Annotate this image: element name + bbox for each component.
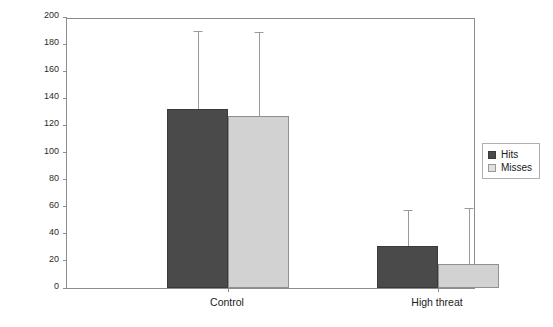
hits-swatch-icon xyxy=(488,151,496,159)
y-tick-label: 140 xyxy=(44,91,59,101)
bar-chart-figure: Composite score 020406080100120140160180… xyxy=(0,0,553,327)
error-bar-cap xyxy=(464,208,473,209)
y-axis-title: Composite score xyxy=(23,0,39,49)
bar-hits-control xyxy=(167,109,228,288)
y-tick-label: 80 xyxy=(49,173,59,183)
legend-item-label: Hits xyxy=(501,148,518,161)
error-bar-cap xyxy=(193,31,202,32)
error-bar-cap xyxy=(254,32,263,33)
y-tick-mark xyxy=(63,17,67,18)
bar-misses-control xyxy=(228,116,289,288)
y-tick-mark xyxy=(63,44,67,45)
bar-hits-high-threat xyxy=(377,246,438,288)
y-tick-mark xyxy=(63,152,67,153)
legend-item-misses[interactable]: Misses xyxy=(488,161,532,174)
error-bar-stem xyxy=(259,33,260,116)
legend-item-label: Misses xyxy=(501,161,532,174)
y-tick-mark xyxy=(63,71,67,72)
misses-swatch-icon xyxy=(488,164,496,172)
x-tick-mark xyxy=(228,288,229,292)
bar-misses-high-threat xyxy=(438,264,499,288)
y-tick-label: 0 xyxy=(54,281,59,291)
y-tick-label: 160 xyxy=(44,64,59,74)
y-tick-label: 40 xyxy=(49,227,59,237)
y-tick-mark xyxy=(63,260,67,261)
y-tick-mark xyxy=(63,179,67,180)
y-tick-label: 180 xyxy=(44,37,59,47)
legend-item-hits[interactable]: Hits xyxy=(488,148,532,161)
error-bar-cap xyxy=(403,210,412,211)
x-axis-category-label: Control xyxy=(210,296,244,308)
x-tick-mark xyxy=(438,288,439,292)
y-tick-mark xyxy=(63,98,67,99)
chart-legend: HitsMisses xyxy=(482,143,540,179)
x-axis-category-label: High threat xyxy=(411,296,462,308)
y-tick-label: 60 xyxy=(49,200,59,210)
plot-area: Composite score 020406080100120140160180… xyxy=(66,18,475,289)
y-tick-mark xyxy=(63,125,67,126)
y-tick-label: 20 xyxy=(49,254,59,264)
y-tick-mark xyxy=(63,233,67,234)
y-tick-mark xyxy=(63,206,67,207)
y-tick-label: 200 xyxy=(44,10,59,20)
y-tick-mark xyxy=(63,288,67,289)
error-bar-stem xyxy=(469,209,470,263)
error-bar-stem xyxy=(198,32,199,109)
y-tick-label: 120 xyxy=(44,118,59,128)
error-bar-stem xyxy=(408,211,409,246)
y-tick-label: 100 xyxy=(44,146,59,156)
